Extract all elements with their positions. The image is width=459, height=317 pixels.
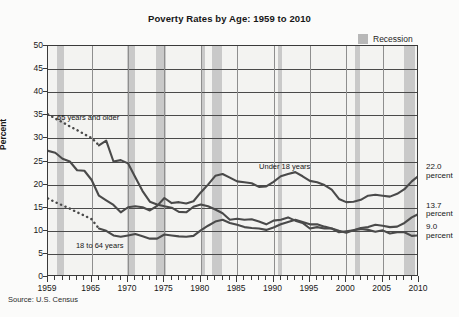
end-value-label: 9.0percent bbox=[426, 223, 453, 240]
x-axis-tick-mark-minor bbox=[243, 276, 244, 280]
x-axis-tick-mark-minor bbox=[142, 276, 143, 280]
x-axis-tick-mark-minor bbox=[360, 276, 361, 280]
x-axis-tick-mark-minor bbox=[302, 276, 303, 280]
x-axis-tick-mark-minor bbox=[134, 276, 135, 280]
y-axis-tick-mark bbox=[43, 184, 47, 185]
series-line bbox=[48, 151, 418, 212]
series-annotation: 18 to 64 years bbox=[76, 241, 124, 250]
x-axis-tick-label: 1995 bbox=[289, 283, 329, 293]
y-axis-tick-label: 0 bbox=[19, 271, 43, 281]
x-axis-tick-mark-minor bbox=[54, 276, 55, 280]
x-axis-tick-mark-major bbox=[273, 276, 274, 282]
x-axis-tick-mark-minor bbox=[229, 276, 230, 280]
x-axis-tick-mark-minor bbox=[338, 276, 339, 280]
end-value-label: 13.7percent bbox=[426, 202, 453, 219]
y-axis-tick-label: 10 bbox=[19, 225, 43, 235]
end-value-unit: percent bbox=[426, 210, 453, 218]
chart-legend: Recession bbox=[358, 34, 413, 44]
y-axis-tick-mark bbox=[43, 137, 47, 138]
series-annotation: 65 years and older bbox=[57, 113, 119, 122]
y-axis-tick-mark bbox=[43, 114, 47, 115]
y-axis-tick-mark bbox=[43, 45, 47, 46]
x-axis-tick-mark-minor bbox=[331, 276, 332, 280]
y-axis-tick-label: 5 bbox=[19, 248, 43, 258]
x-axis-tick-mark-minor bbox=[149, 276, 150, 280]
x-axis-tick-mark-minor bbox=[258, 276, 259, 280]
x-axis-tick-mark-minor bbox=[323, 276, 324, 280]
y-axis-tick-label: 30 bbox=[19, 132, 43, 142]
y-axis-tick-mark bbox=[43, 68, 47, 69]
x-axis-tick-mark-minor bbox=[62, 276, 63, 280]
x-axis-tick-mark-minor bbox=[69, 276, 70, 280]
x-axis-tick-mark-minor bbox=[214, 276, 215, 280]
x-axis-tick-mark-minor bbox=[178, 276, 179, 280]
x-axis-tick-mark-minor bbox=[396, 276, 397, 280]
end-value-unit: percent bbox=[426, 172, 453, 180]
y-axis-tick-label: 40 bbox=[19, 86, 43, 96]
x-axis-tick-mark-minor bbox=[353, 276, 354, 280]
x-axis-tick-mark-major bbox=[91, 276, 92, 282]
x-axis-tick-mark-major bbox=[382, 276, 383, 282]
x-axis-tick-mark-minor bbox=[280, 276, 281, 280]
x-axis-tick-mark-minor bbox=[316, 276, 317, 280]
x-axis-tick-mark-minor bbox=[105, 276, 106, 280]
x-axis-tick-mark-minor bbox=[251, 276, 252, 280]
x-axis-tick-mark-minor bbox=[120, 276, 121, 280]
x-axis-tick-mark-minor bbox=[411, 276, 412, 280]
x-axis-tick-mark-minor bbox=[112, 276, 113, 280]
y-axis-tick-label: 45 bbox=[19, 63, 43, 73]
x-axis-tick-label: 1975 bbox=[143, 283, 183, 293]
x-axis-tick-mark-minor bbox=[403, 276, 404, 280]
recession-legend-label: Recession bbox=[373, 34, 413, 44]
end-value-unit: percent bbox=[426, 232, 453, 240]
y-axis-tick-mark bbox=[43, 91, 47, 92]
x-axis-tick-mark-major bbox=[200, 276, 201, 282]
x-axis-tick-mark-minor bbox=[389, 276, 390, 280]
end-value-label: 22.0percent bbox=[426, 163, 453, 180]
y-axis-tick-mark bbox=[43, 230, 47, 231]
x-axis-tick-mark-major bbox=[127, 276, 128, 282]
chart-title: Poverty Rates by Age: 1959 to 2010 bbox=[0, 13, 459, 24]
x-axis-tick-mark-minor bbox=[367, 276, 368, 280]
x-axis-tick-mark-major bbox=[309, 276, 310, 282]
series-annotation: Under 18 years bbox=[259, 162, 310, 171]
x-axis-tick-label: 1970 bbox=[107, 283, 147, 293]
chart-figure: Poverty Rates by Age: 1959 to 2010 Reces… bbox=[0, 0, 459, 317]
y-axis-tick-mark bbox=[43, 253, 47, 254]
x-axis-tick-mark-major bbox=[345, 276, 346, 282]
x-axis-tick-mark-minor bbox=[185, 276, 186, 280]
x-axis-tick-mark-minor bbox=[265, 276, 266, 280]
x-axis-tick-mark-minor bbox=[83, 276, 84, 280]
series-line bbox=[99, 141, 418, 236]
x-axis-tick-mark-minor bbox=[222, 276, 223, 280]
x-axis-tick-label: 2000 bbox=[325, 283, 365, 293]
x-axis-tick-label: 1985 bbox=[216, 283, 256, 293]
x-axis-tick-label: 2010 bbox=[398, 283, 438, 293]
y-axis-label: Percent bbox=[0, 119, 8, 150]
x-axis-tick-mark-major bbox=[418, 276, 419, 282]
x-axis-tick-label: 2005 bbox=[362, 283, 402, 293]
x-axis-tick-mark-major bbox=[236, 276, 237, 282]
y-axis-tick-mark bbox=[43, 161, 47, 162]
y-axis-tick-mark bbox=[43, 207, 47, 208]
x-axis-tick-mark-minor bbox=[76, 276, 77, 280]
source-note: Source: U.S. Census bbox=[8, 295, 78, 304]
x-axis-tick-label: 1965 bbox=[71, 283, 111, 293]
x-axis-tick-mark-major bbox=[163, 276, 164, 282]
x-axis-tick-mark-major bbox=[47, 276, 48, 282]
x-axis-tick-label: 1990 bbox=[253, 283, 293, 293]
x-axis-tick-mark-minor bbox=[287, 276, 288, 280]
recession-legend-swatch bbox=[358, 34, 368, 44]
y-axis-tick-label: 15 bbox=[19, 202, 43, 212]
x-axis-tick-mark-minor bbox=[156, 276, 157, 280]
y-axis-tick-label: 20 bbox=[19, 179, 43, 189]
x-axis-tick-mark-minor bbox=[374, 276, 375, 280]
y-axis-tick-label: 35 bbox=[19, 109, 43, 119]
x-axis-tick-mark-minor bbox=[294, 276, 295, 280]
x-axis-tick-label: 1980 bbox=[180, 283, 220, 293]
x-axis-tick-mark-minor bbox=[192, 276, 193, 280]
series-line bbox=[48, 198, 99, 228]
x-axis-tick-mark-minor bbox=[171, 276, 172, 280]
x-axis-tick-label: 1959 bbox=[27, 283, 67, 293]
y-axis-tick-label: 50 bbox=[19, 40, 43, 50]
